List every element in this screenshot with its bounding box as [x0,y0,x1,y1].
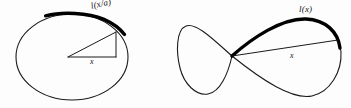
lemniscate-left-lobe [178,25,232,94]
figure-panel: l(x/a) x l(x) x [0,0,351,108]
math-figure-canvas [0,0,351,108]
ellipse-figure-group [16,13,128,100]
lemniscate-right-lobe [232,19,341,97]
lemniscate-highlighted-arc [232,19,340,56]
triangle-hypotenuse-segment [68,32,116,57]
lemniscate-side-label: x [290,52,294,60]
lemniscate-figure-group [178,19,342,97]
ellipse-highlighted-arc [46,13,125,34]
ellipse-side-label: x [90,58,94,66]
lemniscate-arc-label: l(x) [299,5,312,14]
